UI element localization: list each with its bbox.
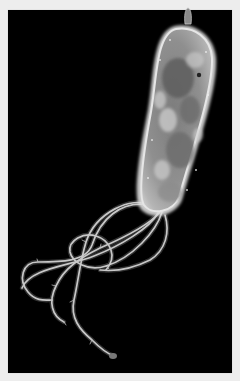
flagella bbox=[22, 203, 167, 359]
polar-stalk bbox=[185, 8, 192, 24]
granule bbox=[197, 73, 201, 77]
cell-body bbox=[137, 8, 216, 216]
image-frame: Grayscale micrograph of a bacterium on b… bbox=[0, 0, 240, 381]
bacterium-micrograph bbox=[0, 0, 240, 381]
